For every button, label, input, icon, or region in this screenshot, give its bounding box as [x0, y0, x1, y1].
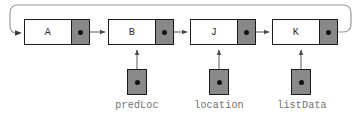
node-b-value: B: [109, 20, 155, 44]
list-node-j: J: [190, 19, 256, 45]
node-k-value: K: [273, 20, 319, 44]
node-a-value: A: [25, 20, 71, 44]
pointer-label-location: location: [189, 100, 249, 111]
pointer-dot-icon: [78, 30, 83, 35]
node-b-pointer-cell: [155, 20, 173, 44]
pointer-dot-icon: [326, 30, 331, 35]
pointer-box-location: [209, 69, 229, 95]
pointer-dot-icon: [162, 30, 167, 35]
pointer-label-predloc: predLoc: [110, 100, 164, 111]
pointer-dot-icon: [217, 80, 222, 85]
node-j-pointer-cell: [237, 20, 255, 44]
pointer-label-listdata: listData: [274, 100, 330, 111]
list-node-a: A: [24, 19, 90, 45]
pointer-dot-icon: [299, 80, 304, 85]
linked-list-diagram: A B J K predLoc location listData: [0, 0, 363, 120]
pointer-box-predloc: [127, 69, 147, 95]
pointer-dot-icon: [135, 80, 140, 85]
pointer-dot-icon: [244, 30, 249, 35]
list-node-b: B: [108, 19, 174, 45]
list-node-k: K: [272, 19, 338, 45]
pointer-box-listdata: [291, 69, 311, 95]
node-j-value: J: [191, 20, 237, 44]
node-k-pointer-cell: [319, 20, 337, 44]
node-a-pointer-cell: [71, 20, 89, 44]
